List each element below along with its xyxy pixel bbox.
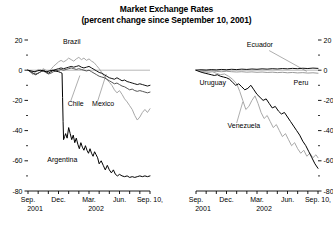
left-chart-panel: 200-20-40-60-80Sep.Dec.Mar.Jun.Sep. 10,2… xyxy=(0,0,165,227)
x-year-label: 2001 xyxy=(195,205,211,212)
series-label-argentina: Argentina xyxy=(47,156,77,164)
y-tick-label: -80 xyxy=(12,188,22,195)
x-axis: Sep.Dec.Mar.Jun.Sep. 10,20012002 xyxy=(189,191,331,212)
series-label-ecuador: Ecuador xyxy=(247,41,274,48)
y-tick-label: -20 xyxy=(12,97,22,104)
x-tick-label: Mar. xyxy=(82,196,96,203)
y-tick-label: -80 xyxy=(324,188,333,195)
chart-root: Market Exchange Rates (percent change si… xyxy=(0,0,333,227)
series-label-venezuela: Venezuela xyxy=(228,122,261,129)
x-tick-label: Jun. xyxy=(113,196,126,203)
x-tick-label: Dec. xyxy=(219,196,233,203)
y-tick-label: -40 xyxy=(324,127,333,134)
y-axis: 200-20-40-60-80 xyxy=(318,37,333,195)
y-tick-label: 20 xyxy=(324,37,332,44)
right-panel-svg: 200-20-40-60-80Sep.Dec.Mar.Jun.Sep. 10,2… xyxy=(168,0,333,227)
x-tick-label: Sep. 10, xyxy=(137,196,163,204)
x-tick-label: Sep. xyxy=(189,196,203,204)
x-tick-label: Sep. 10, xyxy=(305,196,331,204)
y-axis: 200-20-40-60-80 xyxy=(12,37,28,195)
series-label-uruguay: Uruguay xyxy=(200,79,227,87)
series-label-chile: Chile xyxy=(68,100,84,107)
y-tick-label: -20 xyxy=(324,97,333,104)
x-tick-label: Mar. xyxy=(250,196,264,203)
y-tick-label: 20 xyxy=(15,37,23,44)
series-label-peru: Peru xyxy=(294,79,309,86)
x-year-label: 2002 xyxy=(88,205,104,212)
y-tick-label: -60 xyxy=(12,157,22,164)
x-year-label: 2001 xyxy=(27,205,43,212)
series-line-argentina xyxy=(28,70,150,177)
x-axis: Sep.Dec.Mar.Jun.Sep. 10,20012002 xyxy=(21,191,163,212)
y-tick-label: 0 xyxy=(19,67,23,74)
x-year-label: 2002 xyxy=(256,205,272,212)
annotation-leader-line xyxy=(237,102,243,123)
y-tick-label: -60 xyxy=(324,157,333,164)
x-tick-label: Dec. xyxy=(51,196,65,203)
x-tick-label: Jun. xyxy=(281,196,294,203)
series-label-brazil: Brazil xyxy=(63,38,81,45)
x-tick-label: Sep. xyxy=(21,196,35,204)
y-tick-label: 0 xyxy=(324,67,328,74)
y-tick-label: -40 xyxy=(12,127,22,134)
annotation-leader-line xyxy=(71,75,80,101)
series-label-mexico: Mexico xyxy=(92,100,114,107)
right-chart-panel: 200-20-40-60-80Sep.Dec.Mar.Jun.Sep. 10,2… xyxy=(168,0,333,227)
left-panel-svg: 200-20-40-60-80Sep.Dec.Mar.Jun.Sep. 10,2… xyxy=(0,0,165,227)
series-line-mexico xyxy=(28,66,150,86)
